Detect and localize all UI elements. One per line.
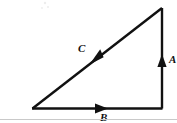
vector-c-arrowhead	[90, 49, 104, 64]
vector-b-label: B	[99, 111, 107, 123]
vector-diagram-canvas: A B C	[0, 0, 177, 123]
vector-a-arrowhead	[157, 54, 166, 67]
vector-a-label: A	[168, 53, 176, 65]
vector-a-group: A	[157, 8, 176, 109]
vector-b-group: B	[32, 104, 163, 123]
vector-diagram-figure: A B C	[0, 0, 177, 123]
scan-artifact	[41, 2, 49, 9]
vector-c-label: C	[78, 42, 86, 54]
vector-c-group: C	[33, 8, 163, 109]
